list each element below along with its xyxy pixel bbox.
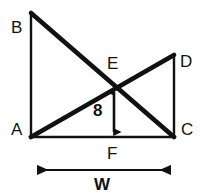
vertex-label-a: A — [11, 121, 22, 138]
vertex-label-b: B — [11, 19, 22, 36]
segment-ad — [31, 55, 174, 137]
geometry-figure: B A D C E F 8 W — [0, 0, 207, 196]
segment-bc — [31, 13, 174, 137]
vertex-label-f: F — [107, 145, 117, 162]
vertex-label-c: C — [181, 121, 193, 138]
height-dimension-label: 8 — [93, 102, 102, 119]
vertex-label-d: D — [180, 53, 192, 70]
vertex-label-e: E — [107, 55, 118, 72]
figure-canvas — [0, 0, 207, 196]
width-dimension-label: W — [94, 176, 110, 193]
